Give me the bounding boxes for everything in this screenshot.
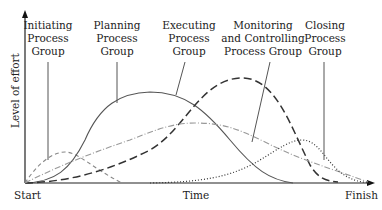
svg-text:Process Group: Process Group — [224, 45, 302, 57]
curve-closing — [150, 140, 370, 183]
svg-text:Closing: Closing — [305, 19, 345, 31]
x-axis-arrow-icon — [367, 180, 375, 186]
x-start-label: Start — [14, 189, 42, 201]
svg-text:Process: Process — [168, 32, 209, 44]
svg-text:Planning: Planning — [93, 19, 140, 31]
svg-text:Process: Process — [96, 32, 137, 44]
svg-text:Process: Process — [27, 32, 68, 44]
svg-text:Monitoring: Monitoring — [233, 19, 293, 31]
svg-text:Executing: Executing — [162, 19, 216, 31]
curve-executing — [25, 78, 338, 183]
y-axis-arrow-icon — [22, 10, 28, 18]
x-finish-label: Finish — [345, 189, 378, 201]
label-monitoring: Monitoring and Controlling Process Group — [221, 19, 305, 57]
callout-executing — [176, 62, 185, 95]
label-closing: Closing Process Group — [304, 19, 345, 57]
svg-text:Process: Process — [304, 32, 345, 44]
svg-text:Initiating: Initiating — [23, 19, 72, 31]
svg-text:Group: Group — [31, 45, 64, 57]
process-groups-diagram: Initiating Process Group Planning Proces… — [0, 0, 382, 210]
svg-text:and Controlling: and Controlling — [221, 32, 305, 44]
svg-text:Group: Group — [100, 45, 133, 57]
y-axis-label: Level of effort — [9, 52, 21, 128]
svg-text:Group: Group — [172, 45, 205, 57]
label-planning: Planning Process Group — [93, 19, 140, 57]
callout-monitoring — [252, 62, 270, 142]
x-axis-label: Time — [183, 189, 210, 201]
svg-text:Group: Group — [308, 45, 341, 57]
label-initiating: Initiating Process Group — [23, 19, 72, 57]
label-executing: Executing Process Group — [162, 19, 216, 57]
